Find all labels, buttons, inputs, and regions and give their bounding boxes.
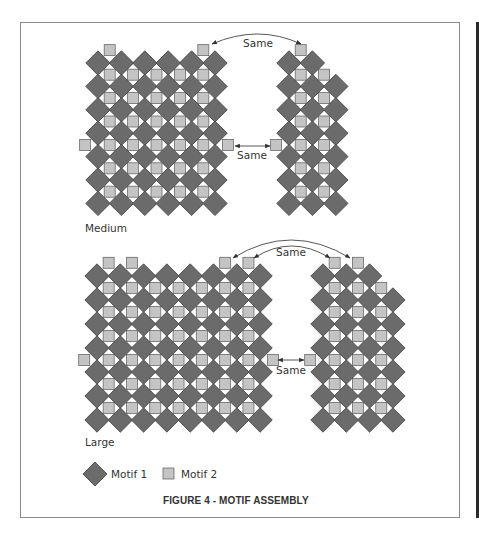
same-label: Same (276, 364, 306, 376)
motif-2-square (352, 379, 363, 390)
motif-2-square (220, 355, 231, 366)
motif-2-square (376, 283, 387, 294)
motif-2-square (329, 379, 340, 390)
grid-medium-right (271, 45, 348, 216)
motif-2-square (319, 93, 330, 104)
motif-2-square (128, 116, 139, 127)
motif-2-square (174, 163, 185, 174)
motif-2-square (79, 355, 90, 366)
motif-2-square (329, 331, 340, 342)
motif-2-square (126, 379, 137, 390)
motif-2-square (352, 283, 363, 294)
medium-side-same-annotation: Same (235, 146, 270, 161)
motif-2-square (126, 355, 137, 366)
motif-2-square (174, 69, 185, 80)
motif-2-square (222, 139, 233, 150)
motif-2-square (198, 116, 209, 127)
motif-2-square (198, 69, 209, 80)
motif-2-square (295, 139, 306, 150)
motif-2-square (220, 257, 231, 268)
motif-2-square (295, 45, 306, 56)
motif-2-square (376, 403, 387, 414)
motif-2-square (150, 379, 161, 390)
motif-2-square (352, 403, 363, 414)
figure-caption: FIGURE 4 - MOTIF ASSEMBLY (163, 495, 309, 506)
motif-2-square (198, 163, 209, 174)
motif-2-square (220, 307, 231, 318)
motif-2-square (196, 355, 207, 366)
motif-2-square (271, 139, 282, 150)
motif-2-square (151, 116, 162, 127)
motif-2-square (376, 379, 387, 390)
motif-2-square (151, 163, 162, 174)
motif-2-square (126, 283, 137, 294)
motif-2-square (103, 307, 114, 318)
motif-2-square (174, 116, 185, 127)
motif-2-square (173, 331, 184, 342)
motif-2-square (305, 355, 316, 366)
motif-2-square (173, 283, 184, 294)
motif-2-square (104, 69, 115, 80)
motif-2-square (196, 331, 207, 342)
motif-2-square (104, 93, 115, 104)
motif-2-square (198, 139, 209, 150)
motif-2-square (173, 403, 184, 414)
motif-2-square (151, 139, 162, 150)
motif-2-square (352, 355, 363, 366)
motif-2-square (243, 331, 254, 342)
motif-2-square (243, 307, 254, 318)
motif-2-square (319, 69, 330, 80)
motif-2-square (295, 186, 306, 197)
legend-label-motif-2: Motif 2 (181, 468, 217, 480)
legend: Motif 1 Motif 2 (83, 462, 217, 486)
grid-large-left (79, 257, 279, 432)
motif-2-square (174, 139, 185, 150)
motif-2-square (329, 355, 340, 366)
motif-2-square (295, 116, 306, 127)
motif-2-square (104, 139, 115, 150)
motif-2-square (104, 116, 115, 127)
legend-label-motif-1: Motif 1 (111, 468, 147, 480)
motif-2-square (243, 257, 254, 268)
grid-large-right (305, 257, 405, 432)
motif-2-square (103, 403, 114, 414)
motif-2-square (198, 45, 209, 56)
same-label: Same (243, 37, 273, 49)
motif-2-square (196, 379, 207, 390)
motif-2-square (329, 283, 340, 294)
motif-2-square (220, 283, 231, 294)
motif-2-square (319, 139, 330, 150)
same-label: Same (237, 149, 267, 161)
section-label-medium: Medium (85, 222, 127, 234)
motif-2-square (104, 45, 115, 56)
motif-grids (79, 45, 405, 433)
motif-2-square (352, 331, 363, 342)
motif-2-square (151, 93, 162, 104)
motif-2-square (295, 93, 306, 104)
motif-2-square (319, 163, 330, 174)
motif-2-square (126, 331, 137, 342)
motif-2-square (151, 69, 162, 80)
motif-2-square (319, 116, 330, 127)
motif-2-square (174, 186, 185, 197)
motif-2-square (173, 379, 184, 390)
motif-2-square (80, 139, 91, 150)
motif-2-square-icon (163, 468, 174, 479)
motif-2-square (128, 93, 139, 104)
motif-2-square (126, 307, 137, 318)
motif-2-square (295, 163, 306, 174)
section-label-large: Large (85, 436, 115, 448)
motif-2-square (198, 186, 209, 197)
motif-2-square (128, 69, 139, 80)
same-label: Same (276, 246, 306, 258)
motif-2-square (196, 307, 207, 318)
motif-2-square (352, 307, 363, 318)
motif-2-square (243, 403, 254, 414)
motif-2-square (376, 355, 387, 366)
motif-2-square (173, 355, 184, 366)
motif-2-square (150, 331, 161, 342)
motif-2-square (198, 93, 209, 104)
large-top-same-annotation: Same (233, 240, 350, 258)
motif-2-square (150, 403, 161, 414)
motif-2-square (196, 283, 207, 294)
